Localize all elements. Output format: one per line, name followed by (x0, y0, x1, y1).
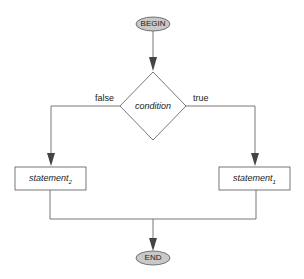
arrow-icon (149, 238, 157, 251)
arrow-icon (47, 153, 55, 166)
flowchart-canvas (0, 0, 304, 279)
condition-label: condition (120, 101, 186, 111)
statement2-label: statement2 (15, 173, 86, 185)
statement2-subscript: 2 (69, 179, 72, 185)
end-label: END (136, 253, 170, 262)
false-label: false (95, 93, 114, 103)
begin-label: BEGIN (136, 19, 170, 28)
statement1-text: statement (233, 173, 273, 183)
true-label: true (193, 93, 209, 103)
arrow-icon (251, 153, 259, 166)
statement1-subscript: 1 (273, 179, 276, 185)
statement2-text: statement (29, 173, 69, 183)
arrow-icon (149, 57, 157, 71)
statement1-label: statement1 (219, 173, 290, 185)
